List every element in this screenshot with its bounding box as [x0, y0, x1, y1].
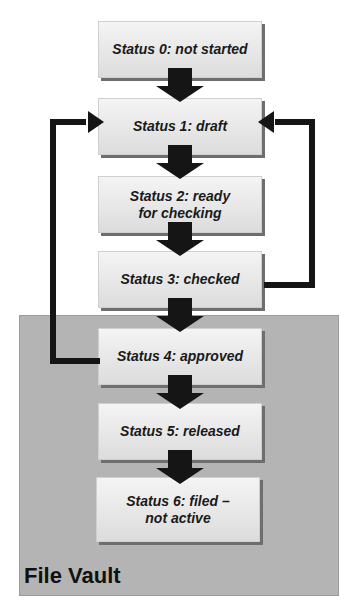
- feedback-arrow-right: [264, 122, 312, 285]
- right-arrowhead-icon: [88, 111, 104, 133]
- down-arrow-icon: [156, 145, 204, 179]
- left-arrowhead-icon: [258, 111, 274, 133]
- down-arrow-icon: [156, 450, 204, 484]
- down-arrow-icon: [156, 298, 204, 332]
- down-arrow-icon: [156, 375, 204, 409]
- down-arrow-icon: [156, 68, 204, 102]
- down-arrow-icons: [156, 68, 204, 484]
- arrows-layer: [0, 0, 357, 615]
- feedback-arrow-left: [53, 122, 100, 361]
- down-arrow-icon: [156, 222, 204, 256]
